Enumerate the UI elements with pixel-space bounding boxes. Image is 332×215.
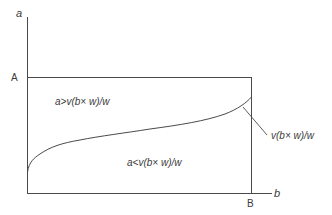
y-axis-label: a	[16, 7, 22, 19]
upper-region-label: a>v(b× w)/w	[55, 96, 110, 107]
curve-leader-line	[243, 107, 267, 135]
lower-region-label: a<v(b× w)/w	[127, 157, 182, 168]
a-marker: A	[11, 72, 18, 83]
b-marker: B	[247, 198, 254, 209]
curve-label: v(b× w)/w	[271, 130, 315, 141]
region-diagram: a b A B a>v(b× w)/w a<v(b× w)/w v(b× w)/…	[0, 0, 332, 215]
x-axis-label: b	[274, 187, 280, 199]
